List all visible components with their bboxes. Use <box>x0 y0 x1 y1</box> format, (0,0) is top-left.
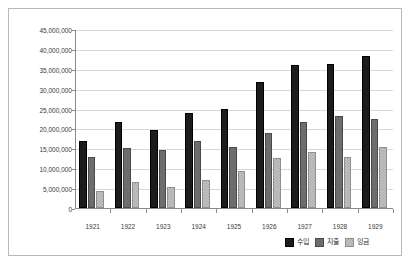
y-axis-tick-mark <box>72 149 75 150</box>
y-axis-tick-label: 30,000,000 <box>12 86 72 93</box>
y-axis-tick-mark <box>72 30 75 31</box>
bar-group-1925 <box>217 30 252 208</box>
x-axis-tick-mark <box>393 209 394 213</box>
bar-1927-series-1[interactable] <box>300 122 308 208</box>
series-0-swatch <box>285 238 294 247</box>
x-axis-tick-label-1922: 1922 <box>111 222 145 231</box>
y-axis-tick-label: 40,000,000 <box>12 46 72 53</box>
bar-group-1927 <box>288 30 323 208</box>
chart-frame: 45,000,00040,000,00035,000,00030,000,000… <box>8 8 402 256</box>
bar-1927-series-2[interactable] <box>308 152 316 208</box>
bar-1924-series-0[interactable] <box>185 113 193 208</box>
y-axis-tick-label: 15,000,000 <box>12 146 72 153</box>
bar-group-1926 <box>253 30 288 208</box>
bar-group-1929 <box>359 30 394 208</box>
y-axis-tick-label: 25,000,000 <box>12 106 72 113</box>
x-axis-tick-label-1928: 1928 <box>323 222 357 231</box>
x-axis-tick-label-1929: 1929 <box>358 222 392 231</box>
y-axis-tick-mark <box>72 70 75 71</box>
y-axis-tick-label: 0 <box>12 206 72 213</box>
y-axis-tick-mark <box>72 169 75 170</box>
x-axis-tick-mark <box>110 209 111 213</box>
bar-1926-series-0[interactable] <box>256 82 264 208</box>
bar-1921-series-2[interactable] <box>96 191 104 208</box>
bar-1928-series-0[interactable] <box>327 64 335 208</box>
y-axis-tick-mark <box>72 90 75 91</box>
y-axis-tick-mark <box>72 129 75 130</box>
x-axis-labels: 192119221923192419251926192719281929 <box>75 213 393 231</box>
bar-1924-series-2[interactable] <box>202 180 210 208</box>
bar-1925-series-2[interactable] <box>238 171 246 208</box>
x-axis-tick-mark <box>322 209 323 213</box>
chart-legend: 수입지출잉금 <box>281 235 373 249</box>
x-axis-tick-label-1923: 1923 <box>146 222 180 231</box>
bar-1921-series-0[interactable] <box>79 141 87 208</box>
bar-1923-series-0[interactable] <box>150 130 158 208</box>
bar-group-1923 <box>147 30 182 208</box>
bar-1926-series-2[interactable] <box>273 158 281 208</box>
bar-group-1924 <box>182 30 217 208</box>
bar-1928-series-1[interactable] <box>335 116 343 208</box>
x-axis-tick-label-1921: 1921 <box>76 222 110 231</box>
x-axis-tick-label-1926: 1926 <box>252 222 286 231</box>
y-axis-tick-mark <box>72 110 75 111</box>
y-axis-labels: 45,000,00040,000,00035,000,00030,000,000… <box>9 30 72 209</box>
bar-1926-series-1[interactable] <box>265 133 273 208</box>
y-axis-tick-label: 45,000,000 <box>12 27 72 34</box>
series-1-swatch <box>315 238 324 247</box>
legend-label-2: 잉금 <box>357 238 369 246</box>
y-axis-tick-label: 10,000,000 <box>12 166 72 173</box>
x-axis-tick-label-1925: 1925 <box>217 222 251 231</box>
x-axis-tick-mark <box>287 209 288 213</box>
y-axis-tick-label: 20,000,000 <box>12 126 72 133</box>
bar-1925-series-1[interactable] <box>229 147 237 208</box>
x-axis-tick-mark <box>252 209 253 213</box>
legend-label-1: 지출 <box>327 238 339 246</box>
x-axis-tick-mark <box>181 209 182 213</box>
legend-item-0[interactable]: 수입 <box>285 238 309 247</box>
bar-group-1921 <box>76 30 111 208</box>
y-axis-tick-mark <box>72 209 75 210</box>
bar-1927-series-0[interactable] <box>291 65 299 208</box>
bar-group-1928 <box>323 30 358 208</box>
bar-1924-series-1[interactable] <box>194 141 202 208</box>
x-axis-tick-label-1927: 1927 <box>288 222 322 231</box>
bar-1922-series-0[interactable] <box>115 122 123 208</box>
x-axis-tick-mark <box>216 209 217 213</box>
bar-series-container <box>76 30 393 208</box>
bar-1929-series-1[interactable] <box>371 119 379 208</box>
y-axis-tick-mark <box>72 50 75 51</box>
bar-1923-series-1[interactable] <box>159 150 167 208</box>
y-axis-tick-label: 5,000,000 <box>12 186 72 193</box>
bar-1925-series-0[interactable] <box>221 109 229 208</box>
bar-1921-series-1[interactable] <box>88 157 96 208</box>
bar-1929-series-0[interactable] <box>362 56 370 208</box>
x-axis-tick-mark <box>146 209 147 213</box>
legend-item-1[interactable]: 지출 <box>315 238 339 247</box>
legend-item-2[interactable]: 잉금 <box>345 238 369 247</box>
bar-group-1922 <box>111 30 146 208</box>
bar-1929-series-2[interactable] <box>379 147 387 208</box>
bar-1928-series-2[interactable] <box>344 157 352 208</box>
bar-1923-series-2[interactable] <box>167 187 175 208</box>
bar-1922-series-2[interactable] <box>132 182 140 208</box>
legend-label-0: 수입 <box>297 238 309 246</box>
y-axis-tick-label: 35,000,000 <box>12 66 72 73</box>
y-axis-tick-mark <box>72 189 75 190</box>
x-axis-tick-mark <box>358 209 359 213</box>
x-axis-tick-label-1924: 1924 <box>182 222 216 231</box>
bar-1922-series-1[interactable] <box>123 148 131 208</box>
series-2-swatch <box>345 238 354 247</box>
plot-area <box>75 30 393 209</box>
